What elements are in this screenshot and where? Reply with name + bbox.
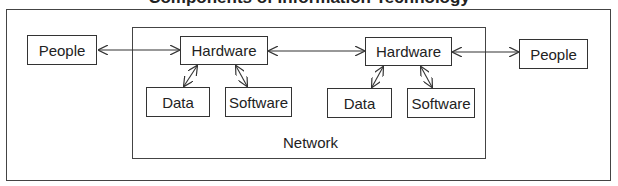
arrow-hardware-data-right [372, 67, 383, 87]
connector-arrows [0, 0, 618, 186]
arrow-hardware-data-left [184, 66, 197, 86]
arrow-hardware-software-left [236, 66, 247, 86]
arrow-hardware-software-right [421, 67, 432, 87]
